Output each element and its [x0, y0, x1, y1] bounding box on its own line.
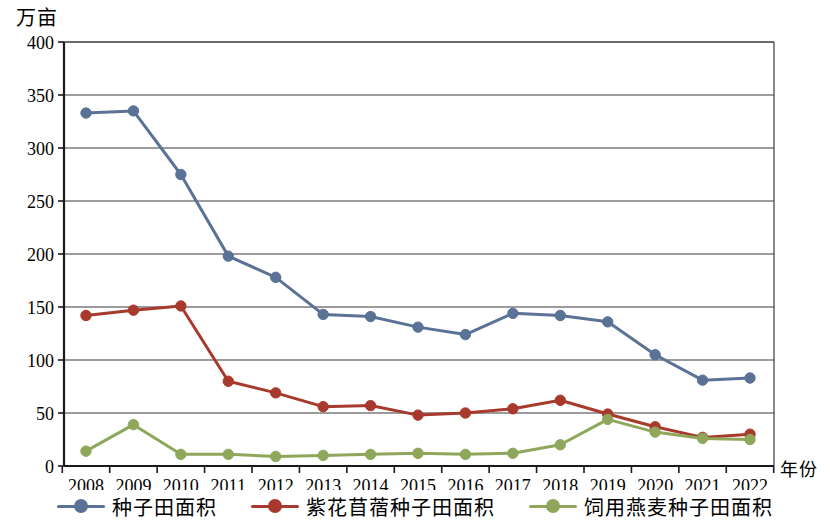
legend-swatch-icon — [251, 498, 299, 514]
data-point — [176, 449, 186, 459]
data-point — [508, 448, 518, 458]
data-point — [128, 106, 138, 116]
y-axis-tick-label: 350 — [27, 86, 54, 106]
y-axis-tick-label: 100 — [27, 351, 54, 371]
data-point — [176, 301, 186, 311]
data-point — [460, 449, 470, 459]
plot-area: 0501001502002503003504002008200920102011… — [0, 0, 830, 490]
data-point — [603, 317, 613, 327]
chart-legend: 种子田面积紫花苜蓿种子田面积饲用燕麦种子田面积 — [0, 488, 830, 524]
y-axis-tick-label: 300 — [27, 139, 54, 159]
legend-marker-icon — [268, 499, 282, 513]
data-point — [271, 388, 281, 398]
legend-item-1[interactable]: 种子田面积 — [57, 492, 217, 521]
y-axis-tick-label: 150 — [27, 298, 54, 318]
data-point — [413, 322, 423, 332]
legend-label: 紫花苜蓿种子田面积 — [306, 492, 495, 521]
legend-label: 种子田面积 — [112, 492, 217, 521]
data-point — [555, 440, 565, 450]
data-point — [508, 308, 518, 318]
data-point — [508, 404, 518, 414]
data-point — [271, 451, 281, 461]
data-point — [650, 350, 660, 360]
data-point — [697, 433, 707, 443]
data-point — [128, 305, 138, 315]
data-point — [365, 311, 375, 321]
y-axis-tick-label: 200 — [27, 245, 54, 265]
data-point — [81, 108, 91, 118]
data-point — [81, 310, 91, 320]
legend-swatch-icon — [57, 498, 105, 514]
data-point — [365, 400, 375, 410]
series-line-1 — [86, 111, 750, 380]
legend-item-3[interactable]: 饲用燕麦种子田面积 — [529, 492, 773, 521]
legend-marker-icon — [546, 499, 560, 513]
data-point — [223, 449, 233, 459]
data-point — [460, 408, 470, 418]
legend-label: 饲用燕麦种子田面积 — [584, 492, 773, 521]
data-point — [413, 410, 423, 420]
data-point — [223, 251, 233, 261]
data-point — [745, 373, 755, 383]
data-point — [81, 446, 91, 456]
data-point — [271, 272, 281, 282]
y-axis-tick-label: 400 — [27, 33, 54, 53]
line-chart: 万亩 年份 0501001502002503003504002008200920… — [0, 0, 830, 524]
data-point — [555, 395, 565, 405]
y-axis-tick-label: 50 — [36, 404, 54, 424]
data-point — [603, 414, 613, 424]
y-axis-tick-label: 250 — [27, 192, 54, 212]
data-point — [318, 309, 328, 319]
legend-swatch-icon — [529, 498, 577, 514]
data-point — [745, 434, 755, 444]
data-point — [697, 375, 707, 385]
data-point — [413, 448, 423, 458]
data-point — [365, 449, 375, 459]
legend-item-2[interactable]: 紫花苜蓿种子田面积 — [251, 492, 495, 521]
legend-marker-icon — [74, 499, 88, 513]
data-point — [176, 169, 186, 179]
data-point — [555, 310, 565, 320]
data-point — [223, 376, 233, 386]
data-point — [318, 401, 328, 411]
data-point — [460, 329, 470, 339]
y-axis-tick-label: 0 — [45, 457, 54, 477]
data-point — [128, 419, 138, 429]
data-point — [650, 427, 660, 437]
data-point — [318, 450, 328, 460]
